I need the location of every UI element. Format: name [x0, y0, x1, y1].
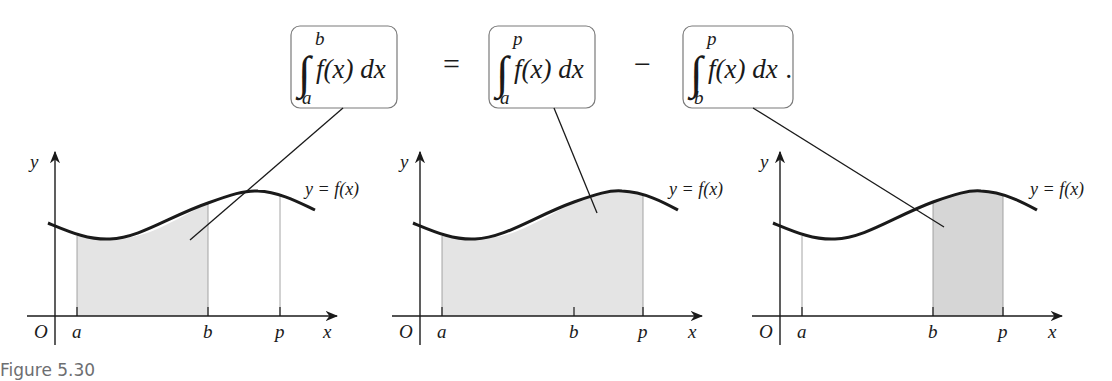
- upper-limit: p: [511, 28, 523, 49]
- integral-box-a-to-b: ∫ b a f(x) dx: [291, 26, 397, 108]
- tick-label-p: p: [273, 321, 285, 342]
- integral-box-b-to-p: ∫ p b f(x) dx .: [683, 26, 793, 108]
- y-axis-label: y: [398, 151, 409, 172]
- upper-limit: b: [315, 28, 325, 49]
- tick-label-b: b: [928, 321, 938, 342]
- pointer-line: [190, 108, 343, 240]
- integrand: f(x) dx: [514, 54, 584, 84]
- curve-label: y = f(x): [1028, 179, 1084, 200]
- origin-label: O: [399, 321, 413, 342]
- tick-label-a: a: [797, 321, 807, 342]
- origin-label: O: [759, 321, 773, 342]
- tick-label-p: p: [996, 321, 1008, 342]
- integrand: f(x) dx: [316, 54, 386, 84]
- equals-operator: =: [443, 47, 460, 80]
- y-axis-label: y: [28, 151, 39, 172]
- panel-a-to-p: y x O a b p y = f(x): [392, 108, 723, 345]
- tick-label-p: p: [636, 321, 648, 342]
- figure-caption: Figure 5.30: [0, 360, 95, 380]
- x-axis-label: x: [322, 321, 332, 342]
- shaded-region: [77, 203, 208, 316]
- pointer-line: [554, 108, 597, 213]
- shaded-region: [933, 191, 1003, 316]
- origin-label: O: [34, 321, 48, 342]
- tick-label-b: b: [569, 321, 579, 342]
- equation: ∫ b a f(x) dx = ∫ p a f(x) dx − ∫ p b f(…: [291, 26, 793, 108]
- panel-a-to-b: y x O a b p y = f(x): [27, 108, 359, 345]
- period: .: [786, 54, 793, 84]
- integral-box-a-to-p: ∫ p a f(x) dx: [489, 26, 595, 108]
- y-axis-label: y: [758, 151, 769, 172]
- panel-b-to-p: y x O a b p y = f(x): [752, 108, 1084, 345]
- shaded-region: [442, 191, 643, 316]
- upper-limit: p: [705, 28, 717, 49]
- tick-label-a: a: [437, 321, 447, 342]
- tick-label-b: b: [203, 321, 213, 342]
- curve-label: y = f(x): [667, 179, 723, 200]
- figure-canvas: ∫ b a f(x) dx = ∫ p a f(x) dx − ∫ p b f(…: [0, 0, 1112, 381]
- x-axis-label: x: [687, 321, 697, 342]
- integrand: f(x) dx: [708, 54, 778, 84]
- minus-operator: −: [634, 47, 651, 80]
- x-axis-label: x: [1047, 321, 1057, 342]
- curve-label: y = f(x): [303, 179, 359, 200]
- pointer-line: [753, 108, 944, 227]
- lower-limit: a: [500, 87, 510, 108]
- tick-label-a: a: [72, 321, 82, 342]
- lower-limit: a: [302, 87, 312, 108]
- lower-limit: b: [694, 87, 704, 108]
